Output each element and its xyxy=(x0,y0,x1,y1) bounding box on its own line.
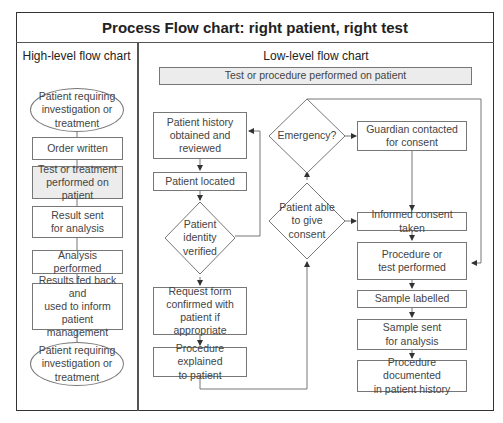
hl-end-oval: Patient requiring investigation or treat… xyxy=(30,342,124,386)
ll-procedure-performed: Procedure or test performed xyxy=(357,242,467,280)
hl-results-fed-back: Results fed back and used to inform pati… xyxy=(32,283,123,330)
hl-order-written: Order written xyxy=(32,137,123,160)
ll-patient-located: Patient located xyxy=(153,172,247,191)
ll-patient-history: Patient history obtained and reviewed xyxy=(153,112,247,159)
ll-request-form: Request form confirmed with patient if a… xyxy=(153,287,247,335)
ll-procedure-explained: Procedure explained to patient xyxy=(153,347,247,377)
ll-informed-consent: Informed consent taken xyxy=(357,212,467,231)
hl-result-sent: Result sent for analysis xyxy=(32,206,123,238)
ll-sample-sent: Sample sent for analysis xyxy=(357,319,467,350)
ll-identity-verified-label: Patient identity verified xyxy=(170,218,230,258)
hl-analysis-performed: Analysis performed xyxy=(32,250,123,274)
ll-guardian-contacted: Guardian contacted for consent xyxy=(357,121,467,151)
ll-banner: Test or procedure performed on patient xyxy=(159,67,472,85)
ll-procedure-documented: Procedure documented in patient history xyxy=(357,360,467,392)
ll-emergency-label: Emergency? xyxy=(277,128,337,144)
hl-start-oval: Patient requiring investigation or treat… xyxy=(30,88,124,132)
ll-consent-able-label: Patient able to give consent xyxy=(275,202,339,240)
ll-sample-labelled: Sample labelled xyxy=(357,290,467,308)
hl-test-performed: Test or treatment performed on patient xyxy=(32,166,123,199)
